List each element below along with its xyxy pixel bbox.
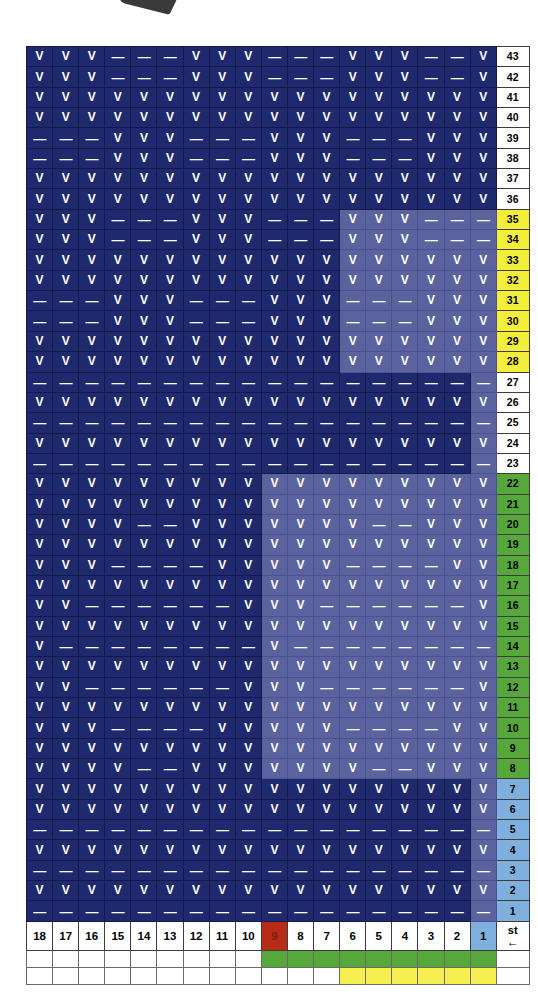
- grid-cell[interactable]: V: [261, 759, 287, 779]
- grid-cell[interactable]: V: [261, 87, 287, 107]
- grid-cell[interactable]: V: [209, 87, 235, 107]
- grid-cell[interactable]: V: [418, 616, 444, 636]
- grid-cell[interactable]: —: [183, 677, 209, 697]
- grid-cell[interactable]: —: [209, 413, 235, 433]
- grid-cell[interactable]: V: [209, 474, 235, 494]
- grid-cell[interactable]: V: [131, 433, 157, 453]
- grid-cell[interactable]: V: [470, 657, 496, 677]
- grid-cell[interactable]: V: [470, 881, 496, 901]
- grid-cell[interactable]: V: [287, 128, 313, 148]
- column-number[interactable]: 1: [470, 921, 496, 950]
- grid-cell[interactable]: —: [183, 413, 209, 433]
- grid-cell[interactable]: V: [444, 433, 470, 453]
- grid-cell[interactable]: —: [235, 291, 261, 311]
- grid-cell[interactable]: V: [470, 494, 496, 514]
- grid-cell[interactable]: V: [287, 657, 313, 677]
- grid-cell[interactable]: V: [392, 738, 418, 758]
- grid-cell[interactable]: —: [183, 860, 209, 880]
- grid-cell[interactable]: V: [131, 698, 157, 718]
- grid-cell[interactable]: —: [131, 718, 157, 738]
- grid-cell[interactable]: V: [287, 514, 313, 534]
- grid-cell[interactable]: V: [53, 596, 79, 616]
- grid-cell[interactable]: V: [470, 311, 496, 331]
- grid-cell[interactable]: V: [105, 250, 131, 270]
- grid-cell[interactable]: —: [53, 820, 79, 840]
- grid-cell[interactable]: V: [157, 352, 183, 372]
- grid-cell[interactable]: V: [79, 250, 105, 270]
- grid-cell[interactable]: V: [340, 169, 366, 189]
- grid-cell[interactable]: V: [53, 840, 79, 860]
- grid-cell[interactable]: V: [183, 67, 209, 87]
- grid-cell[interactable]: V: [470, 535, 496, 555]
- grid-cell[interactable]: V: [444, 840, 470, 860]
- grid-cell[interactable]: V: [314, 108, 340, 128]
- grid-cell[interactable]: V: [418, 128, 444, 148]
- grid-cell[interactable]: V: [444, 474, 470, 494]
- grid-cell[interactable]: V: [157, 738, 183, 758]
- grid-cell[interactable]: —: [418, 718, 444, 738]
- grid-cell[interactable]: V: [209, 352, 235, 372]
- grid-cell[interactable]: V: [53, 209, 79, 229]
- grid-cell[interactable]: V: [444, 352, 470, 372]
- grid-cell[interactable]: —: [209, 291, 235, 311]
- grid-cell[interactable]: V: [314, 840, 340, 860]
- grid-cell[interactable]: V: [53, 514, 79, 534]
- grid-cell[interactable]: V: [470, 840, 496, 860]
- grid-cell[interactable]: V: [27, 738, 53, 758]
- grid-cell[interactable]: —: [131, 860, 157, 880]
- grid-cell[interactable]: V: [287, 352, 313, 372]
- column-number[interactable]: 6: [340, 921, 366, 950]
- grid-cell[interactable]: V: [392, 575, 418, 595]
- grid-cell[interactable]: V: [183, 698, 209, 718]
- grid-cell[interactable]: —: [235, 148, 261, 168]
- grid-cell[interactable]: —: [340, 128, 366, 148]
- grid-cell[interactable]: V: [235, 494, 261, 514]
- grid-cell[interactable]: —: [157, 677, 183, 697]
- grid-cell[interactable]: V: [209, 555, 235, 575]
- grid-cell[interactable]: —: [157, 596, 183, 616]
- grid-cell[interactable]: V: [105, 291, 131, 311]
- grid-cell[interactable]: —: [340, 718, 366, 738]
- grid-cell[interactable]: —: [366, 901, 392, 921]
- grid-cell[interactable]: V: [53, 47, 79, 67]
- grid-cell[interactable]: V: [105, 189, 131, 209]
- grid-cell[interactable]: V: [314, 535, 340, 555]
- grid-cell[interactable]: V: [131, 108, 157, 128]
- grid-cell[interactable]: V: [366, 250, 392, 270]
- grid-cell[interactable]: —: [287, 860, 313, 880]
- grid-cell[interactable]: —: [157, 555, 183, 575]
- grid-cell[interactable]: —: [53, 901, 79, 921]
- grid-cell[interactable]: V: [157, 189, 183, 209]
- grid-cell[interactable]: V: [79, 738, 105, 758]
- grid-cell[interactable]: —: [157, 413, 183, 433]
- grid-cell[interactable]: V: [157, 331, 183, 351]
- grid-cell[interactable]: V: [183, 494, 209, 514]
- grid-cell[interactable]: —: [366, 759, 392, 779]
- grid-cell[interactable]: V: [470, 270, 496, 290]
- grid-cell[interactable]: V: [392, 250, 418, 270]
- grid-cell[interactable]: V: [287, 169, 313, 189]
- grid-cell[interactable]: V: [418, 698, 444, 718]
- grid-cell[interactable]: V: [366, 352, 392, 372]
- grid-cell[interactable]: V: [157, 87, 183, 107]
- grid-cell[interactable]: V: [287, 433, 313, 453]
- grid-cell[interactable]: V: [392, 189, 418, 209]
- grid-cell[interactable]: V: [53, 270, 79, 290]
- grid-cell[interactable]: V: [470, 87, 496, 107]
- grid-cell[interactable]: V: [209, 616, 235, 636]
- grid-cell[interactable]: V: [444, 535, 470, 555]
- column-number[interactable]: 12: [183, 921, 209, 950]
- grid-cell[interactable]: —: [287, 453, 313, 473]
- grid-cell[interactable]: —: [444, 820, 470, 840]
- grid-cell[interactable]: V: [287, 840, 313, 860]
- grid-cell[interactable]: V: [261, 840, 287, 860]
- grid-cell[interactable]: V: [444, 514, 470, 534]
- grid-cell[interactable]: —: [209, 677, 235, 697]
- grid-cell[interactable]: V: [470, 291, 496, 311]
- grid-cell[interactable]: —: [79, 372, 105, 392]
- grid-cell[interactable]: V: [183, 514, 209, 534]
- grid-cell[interactable]: —: [314, 209, 340, 229]
- grid-cell[interactable]: —: [235, 901, 261, 921]
- grid-cell[interactable]: V: [183, 250, 209, 270]
- grid-cell[interactable]: V: [287, 596, 313, 616]
